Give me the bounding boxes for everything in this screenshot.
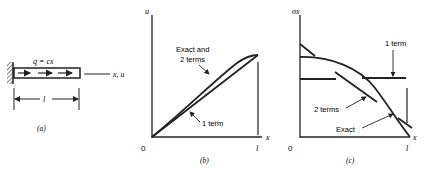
length-label: l (43, 95, 46, 104)
caption-b: (b) (200, 156, 209, 165)
panel-c: σx x 0 l 1 term 2 terms Exact (c) (288, 7, 417, 165)
exact-curve (300, 57, 410, 137)
caption-a: (a) (37, 124, 46, 133)
y-axis-label: u (145, 7, 149, 16)
x-axis-label: x (412, 133, 417, 142)
two-terms-segment (335, 72, 377, 102)
figure: q = cx x, u l (a) u x 0 l Exact and 2 te… (0, 0, 434, 179)
panel-b: u x 0 l Exact and 2 terms 1 term (b) (141, 7, 270, 165)
annotation-one-term: 1 term (385, 39, 406, 48)
end-label: l (256, 144, 259, 153)
y-axis-label: σx (292, 7, 300, 16)
caption-c: (c) (346, 156, 355, 165)
annotation-two-terms: 2 terms (314, 105, 339, 114)
annotation-exact-line1: Exact and (176, 45, 209, 54)
two-terms-segment (300, 44, 315, 56)
load-label: q = cx (33, 57, 54, 66)
fixed-wall-icon (7, 62, 13, 84)
end-label: l (406, 144, 409, 153)
annotation-exact-line2: 2 terms (180, 55, 205, 64)
x-axis-label: x (265, 133, 270, 142)
annotation-one-term: 1 term (202, 119, 223, 128)
axis-label: x, u (112, 70, 125, 79)
panel-a: q = cx x, u l (a) (7, 57, 125, 133)
origin-label: 0 (288, 144, 293, 153)
origin-label: 0 (141, 144, 146, 153)
annotation-exact: Exact (336, 125, 356, 134)
